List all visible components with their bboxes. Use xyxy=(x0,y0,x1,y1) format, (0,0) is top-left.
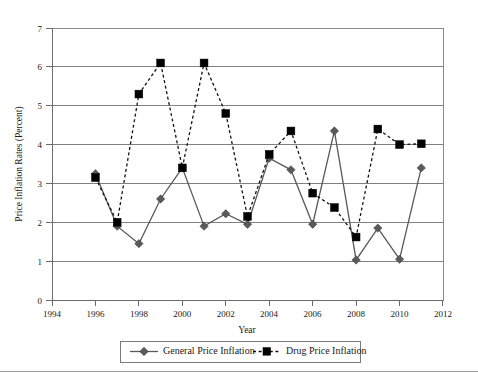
x-tick-label-1994: 1994 xyxy=(43,309,62,319)
chart-figure: 7 6 5 4 3 2 1 0 Price Inflation Rates (P… xyxy=(0,0,478,380)
data-point xyxy=(330,204,338,212)
y-tick-label-2: 2 xyxy=(38,218,43,228)
data-point xyxy=(287,127,295,135)
x-tick-label-2012: 2012 xyxy=(434,309,452,319)
data-point xyxy=(265,150,273,158)
y-tick-label-4: 4 xyxy=(38,140,43,150)
data-point xyxy=(157,59,165,67)
y-tick-label-6: 6 xyxy=(38,62,43,72)
x-tick-label-2010: 2010 xyxy=(390,309,409,319)
x-tick-label-2000: 2000 xyxy=(173,309,192,319)
legend-label-drug: Drug Price Inflation xyxy=(286,345,367,356)
price-inflation-line-chart: 7 6 5 4 3 2 1 0 Price Inflation Rates (P… xyxy=(0,0,478,380)
y-tick-label-5: 5 xyxy=(38,101,43,111)
x-tick-label-1996: 1996 xyxy=(86,309,105,319)
data-point xyxy=(352,233,360,241)
data-point xyxy=(200,59,208,67)
x-tick-label-1998: 1998 xyxy=(130,309,149,319)
data-point xyxy=(396,141,404,149)
data-point xyxy=(222,110,230,118)
chart-legend: General Price Inflation Drug Price Infla… xyxy=(120,341,367,362)
x-tick-label-2008: 2008 xyxy=(347,309,366,319)
chart-background xyxy=(0,0,478,380)
y-tick-label-1: 1 xyxy=(38,257,43,267)
x-tick-label-2004: 2004 xyxy=(260,309,279,319)
y-tick-label-7: 7 xyxy=(38,24,43,34)
y-axis-title: Price Inflation Rates (Percent) xyxy=(14,106,25,221)
data-point xyxy=(113,218,121,226)
data-point xyxy=(178,164,186,172)
y-tick-label-0: 0 xyxy=(38,296,43,306)
legend-label-general: General Price Inflation xyxy=(163,345,255,356)
data-point xyxy=(374,125,382,133)
y-tick-label-3: 3 xyxy=(38,179,43,189)
data-point xyxy=(309,189,317,197)
square-marker-icon xyxy=(263,348,271,356)
data-point xyxy=(244,213,252,221)
data-point xyxy=(417,140,425,148)
data-point xyxy=(92,174,100,182)
x-axis-title: Year xyxy=(238,325,256,335)
data-point xyxy=(135,90,143,98)
x-tick-label-2002: 2002 xyxy=(217,309,235,319)
x-tick-label-2006: 2006 xyxy=(304,309,323,319)
